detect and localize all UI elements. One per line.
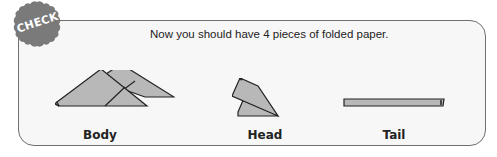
tail-piece [342,97,446,109]
body-label: Body [70,128,130,142]
tail-illustration-icon [342,97,446,109]
head-label: Head [235,128,295,142]
head-illustration-icon [232,78,292,120]
instruction-text: Now you should have 4 pieces of folded p… [150,28,388,40]
body-piece [55,70,175,120]
head-piece [232,78,292,120]
tail-label: Tail [364,128,424,142]
check-badge: CHECK! [10,0,64,48]
body-illustration-icon [55,70,175,120]
